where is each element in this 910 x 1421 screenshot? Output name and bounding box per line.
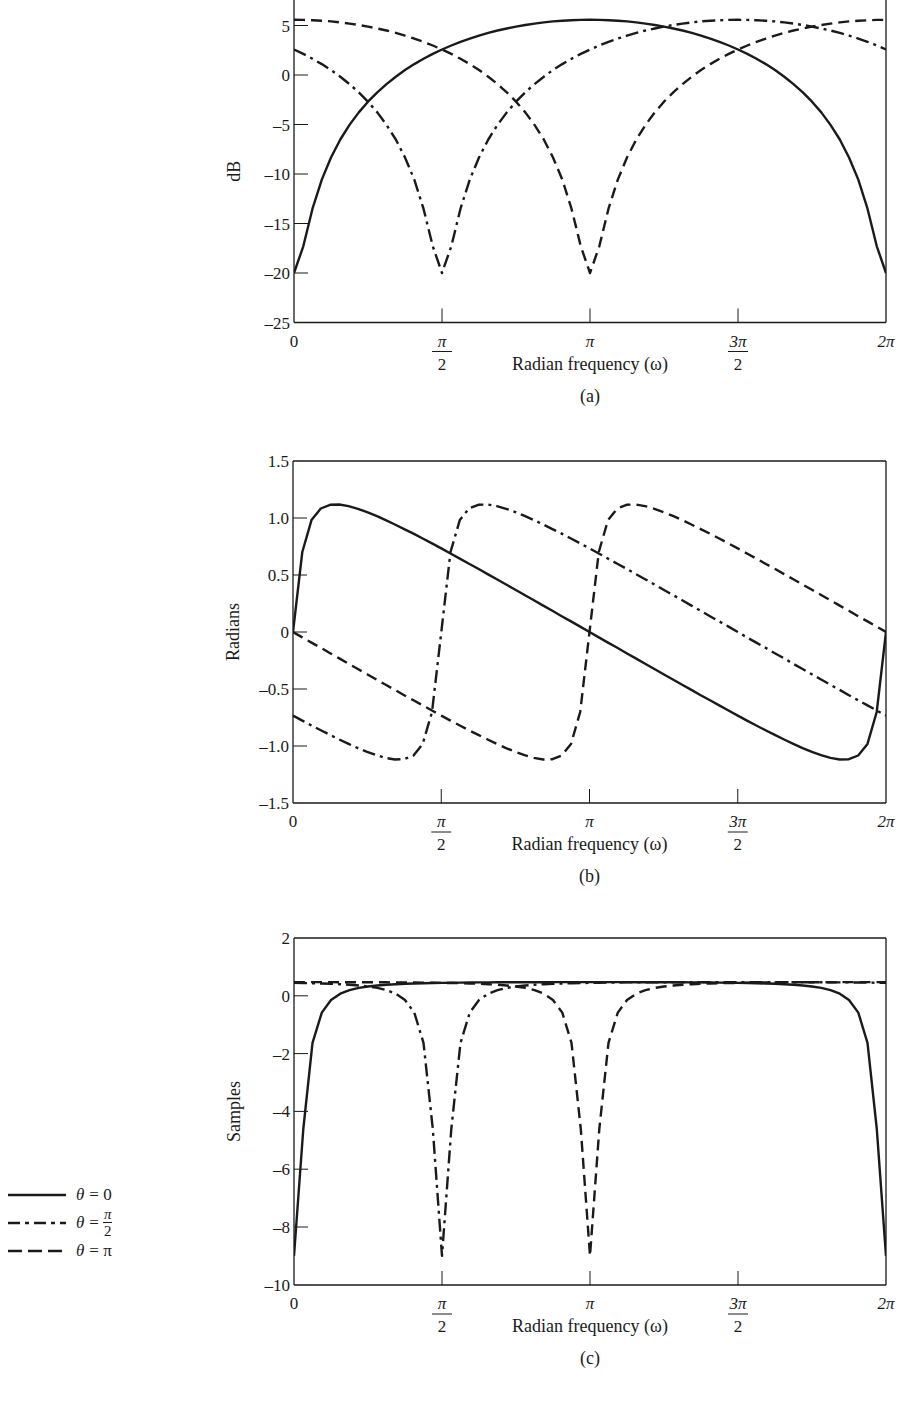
y-tick-label: 0.5: [268, 566, 289, 585]
x-tick-denominator: 2: [438, 355, 447, 374]
y-tick-label: 1.0: [268, 509, 289, 528]
chart-panel-b: –1.5–1.0–0.500.51.01.50π2π3π22πRadian fr…: [223, 452, 895, 887]
series-group: [294, 982, 886, 1256]
x-tick-numerator: π: [438, 1294, 447, 1313]
x-tick-label: 0: [289, 812, 298, 831]
legend-item-theta-pi: θ = π: [8, 1238, 208, 1264]
x-tick-label: 2π: [877, 332, 895, 351]
x-tick-numerator: 3π: [728, 812, 747, 831]
x-tick-denominator: 2: [437, 835, 446, 854]
legend-value: =: [89, 1213, 99, 1233]
x-tick-label: π: [586, 332, 595, 351]
x-tick-numerator: 3π: [728, 332, 747, 351]
y-tick-label: 1.5: [268, 452, 289, 471]
y-tick-label: –8: [272, 1218, 290, 1237]
y-tick-label: 0: [282, 66, 291, 85]
x-tick-denominator: 2: [438, 1317, 447, 1336]
x-axis-label: Radian frequency (ω): [512, 1316, 668, 1337]
legend-label: θ = π: [76, 1241, 112, 1261]
y-tick-label: –25: [264, 314, 291, 333]
y-tick-label: –20: [264, 264, 291, 283]
y-axis-label: Radians: [223, 603, 243, 661]
x-tick-label: 0: [290, 1294, 299, 1313]
dashed-line-swatch-icon: [8, 1245, 68, 1257]
y-axis-ticks: –1.5–1.0–0.500.51.01.5: [258, 452, 307, 813]
x-tick-label: 2π: [877, 812, 895, 831]
legend: θ = 0 θ = π 2 θ = π: [8, 1182, 208, 1264]
x-tick-denominator: 2: [734, 1317, 743, 1336]
dashdot-line-swatch-icon: [8, 1217, 68, 1229]
y-tick-label: 0: [282, 987, 291, 1006]
series-line-dashed: [294, 982, 886, 1256]
y-tick-label: –1.0: [258, 737, 289, 756]
y-tick-label: –5: [272, 116, 290, 135]
x-tick-numerator: π: [437, 812, 446, 831]
x-tick-numerator: π: [438, 332, 447, 351]
series-line-dashed: [294, 20, 886, 273]
y-tick-label: –10: [264, 1276, 291, 1295]
y-tick-label: –4: [272, 1102, 291, 1121]
series-line-dashed: [293, 505, 886, 760]
legend-value: = 0: [89, 1185, 111, 1205]
theta-symbol: θ: [76, 1185, 84, 1205]
y-tick-label: –15: [264, 215, 291, 234]
y-tick-label: –6: [272, 1160, 290, 1179]
fraction: π 2: [103, 1207, 113, 1239]
y-tick-label: 2: [282, 929, 291, 948]
theta-symbol: θ: [76, 1213, 84, 1233]
series-line-dashdot: [294, 20, 886, 273]
theta-symbol: θ: [76, 1241, 84, 1261]
y-tick-label: 0: [281, 623, 290, 642]
y-axis-label: dB: [224, 161, 244, 182]
x-tick-label: 0: [290, 332, 299, 351]
legend-label: θ = π 2: [76, 1207, 112, 1239]
panel-caption: (b): [579, 866, 600, 887]
legend-label: θ = 0: [76, 1185, 112, 1205]
series-line-solid: [294, 982, 886, 1256]
fraction-denominator: 2: [104, 1223, 112, 1239]
chart-panel-a: –25–20–15–10–5050π2π3π22πRadian frequenc…: [224, 0, 895, 407]
y-tick-label: –10: [264, 165, 291, 184]
x-tick-denominator: 2: [734, 355, 743, 374]
legend-item-theta-pi-over-2: θ = π 2: [8, 1208, 208, 1238]
panel-caption: (c): [580, 1348, 600, 1369]
y-tick-label: –0.5: [258, 680, 289, 699]
x-tick-denominator: 2: [734, 835, 743, 854]
fraction-numerator: π: [103, 1207, 113, 1223]
legend-value: = π: [89, 1241, 111, 1261]
y-axis-ticks: –25–20–15–10–505: [264, 17, 309, 333]
y-axis-label: Samples: [224, 1081, 244, 1142]
chart-panel-c: –10–8–6–4–2020π2π3π22πRadian frequency (…: [224, 929, 895, 1369]
y-tick-label: 5: [282, 17, 291, 36]
x-tick-label: 2π: [877, 1294, 895, 1313]
solid-line-swatch-icon: [8, 1189, 68, 1201]
series-group: [294, 20, 886, 273]
x-axis-label: Radian frequency (ω): [512, 354, 668, 375]
y-tick-label: –1.5: [258, 794, 289, 813]
y-tick-label: –2: [272, 1045, 290, 1064]
x-tick-numerator: 3π: [728, 1294, 747, 1313]
x-axis-label: Radian frequency (ω): [512, 834, 668, 855]
series-line-dashdot: [294, 982, 886, 1256]
x-tick-label: π: [585, 812, 594, 831]
legend-item-theta-0: θ = 0: [8, 1182, 208, 1208]
panel-caption: (a): [580, 386, 600, 407]
series-group: [293, 505, 886, 760]
series-line-solid: [294, 20, 886, 273]
x-tick-label: π: [586, 1294, 595, 1313]
